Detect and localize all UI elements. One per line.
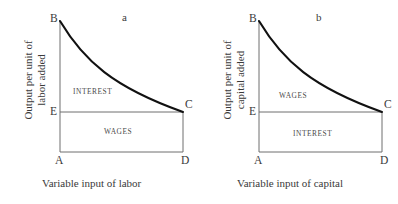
panel-a: a B C E A D INTEREST WAGES Output per un… [0,0,199,204]
figure-container: a B C E A D INTEREST WAGES Output per un… [0,0,398,204]
panel-tag-a: a [122,12,127,23]
vertex-label-e: E [249,106,256,118]
y-axis-label-line2: capital added [234,51,246,109]
x-axis-caption: Variable input of labor [42,178,141,189]
region-label-upper: WAGES [279,92,307,99]
y-axis-label-line1: Output per unit of [221,40,233,119]
x-axis-caption: Variable input of capital [237,178,343,189]
y-axis-label-line2: labor added [35,54,47,106]
region-label-lower: INTEREST [293,130,332,137]
vertex-label-e: E [50,106,57,118]
y-axis-label: Output per unit of capital added [221,10,247,150]
panel-tag-b: b [316,12,322,23]
panel-b: b B C E A D WAGES INTEREST Output per un… [199,0,398,204]
vertex-label-a: A [254,155,262,167]
vertex-label-d: D [181,155,189,167]
vertex-label-b: B [249,13,257,25]
region-label-lower: WAGES [104,128,132,135]
region-label-upper: INTEREST [73,88,112,95]
vertex-label-c: C [384,99,392,111]
vertex-label-d: D [380,155,388,167]
marginal-product-curve [60,21,183,112]
marginal-product-curve [259,21,382,112]
vertex-label-c: C [185,99,193,111]
vertex-label-a: A [55,155,63,167]
y-axis-label-line1: Output per unit of [22,40,34,119]
vertex-label-b: B [50,13,58,25]
y-axis-label: Output per unit of labor added [22,10,48,150]
